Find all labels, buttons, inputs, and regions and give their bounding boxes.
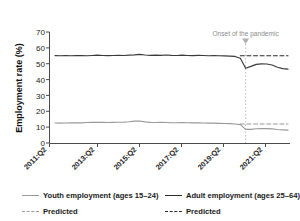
- legend-label-youth-employment: Youth employment (ages 15–24): [43, 191, 159, 200]
- legend-swatch-youth-dashed: [22, 211, 39, 212]
- series-line: [55, 121, 288, 130]
- chart-figure: Employment rate (%) 70 60 50 40 30 20 10…: [0, 0, 300, 221]
- series-layer: [55, 54, 288, 130]
- y-tick-label-70: 70: [36, 28, 45, 37]
- legend-item-adult-employment: Adult employment (ages 25–64): [165, 191, 300, 200]
- legend-swatch-adult-solid: [165, 195, 182, 196]
- legend-label-youth-predicted: Predicted: [43, 207, 78, 216]
- x-tick-label-2: 2015:Q2: [112, 145, 139, 172]
- down-triangle-icon: [242, 39, 249, 45]
- x-tick-label-1: 2013:Q2: [70, 145, 97, 172]
- legend-swatch-adult-dashed: [165, 211, 182, 212]
- legend-label-adult-employment: Adult employment (ages 25–64): [186, 191, 300, 200]
- y-tick-label-30: 30: [36, 92, 45, 101]
- x-tick-label-5: 2021:Q2: [238, 145, 265, 172]
- y-tick-label-40: 40: [36, 76, 45, 85]
- y-tick-label-20: 20: [36, 107, 45, 116]
- y-tick-label-60: 60: [36, 44, 45, 53]
- legend-item-youth-predicted: Predicted: [22, 207, 78, 216]
- y-tick-label-50: 50: [36, 60, 45, 69]
- x-tick-label-0: 2011:Q2: [22, 145, 48, 171]
- y-tick-label-10: 10: [36, 123, 45, 132]
- legend-label-adult-predicted: Predicted: [186, 207, 221, 216]
- x-tick-label-4: 2019:Q2: [196, 145, 223, 172]
- x-tick-label-3: 2017:Q2: [154, 145, 181, 172]
- legend-item-adult-predicted: Predicted: [165, 207, 221, 216]
- legend-item-youth-employment: Youth employment (ages 15–24): [22, 191, 159, 200]
- series-line: [55, 54, 288, 69]
- y-axis-title: Employment rate (%): [14, 43, 24, 133]
- pandemic-annotation-label: Onset of the pandemic: [212, 30, 279, 38]
- legend-swatch-youth-solid: [22, 195, 39, 196]
- chart-legend: Youth employment (ages 15–24) Adult empl…: [0, 188, 300, 221]
